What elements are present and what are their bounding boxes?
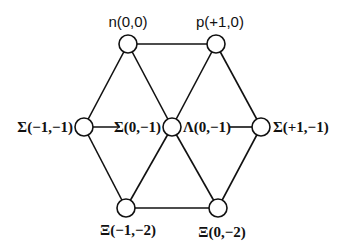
label-p: p(+1,0) — [196, 13, 244, 30]
octet-diagram: n(0,0) p(+1,0) Σ(−1,−1) Σ(0,−1) Λ(0,−1) … — [0, 0, 346, 244]
node-xi-minus — [117, 199, 135, 217]
node-center — [163, 118, 181, 136]
label-xi-minus: Ξ(−1,−2) — [100, 222, 156, 239]
edge-center-xi-zero — [172, 127, 218, 208]
node-sigma-plus — [252, 118, 270, 136]
edge-p-sigma-plus — [216, 44, 261, 127]
label-sigma-minus: Σ(−1,−1) — [17, 119, 73, 136]
edge-sigma-plus-xi-zero — [218, 127, 261, 208]
edge-center-xi-minus — [126, 127, 172, 208]
label-sigma-plus: Σ(+1,−1) — [273, 119, 329, 136]
nodes — [75, 35, 270, 217]
edge-n-sigma-minus — [84, 44, 128, 127]
edge-sigma-minus-xi-minus — [84, 127, 126, 208]
label-sigma-zero: Σ(0,−1) — [114, 119, 161, 136]
node-n — [119, 35, 137, 53]
edge-p-center — [172, 44, 216, 127]
edge-n-center — [128, 44, 172, 127]
label-xi-zero: Ξ(0,−2) — [198, 224, 245, 241]
node-xi-zero — [209, 199, 227, 217]
node-p — [207, 35, 225, 53]
label-lambda: Λ(0,−1) — [183, 119, 231, 136]
label-n: n(0,0) — [108, 13, 147, 30]
node-sigma-minus — [75, 118, 93, 136]
